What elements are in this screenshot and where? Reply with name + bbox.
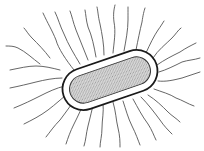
flagellum [133,99,156,140]
flagellum [158,72,200,81]
flagellum [70,11,88,60]
bacterium-diagram: peritrichous bacterium [0,0,204,151]
flagellum [141,97,172,134]
cell-body [57,44,163,116]
flagellum [6,46,40,64]
flagellum [10,66,60,70]
flagellum [136,8,145,50]
flagellum [14,86,65,108]
flagellum [124,7,128,51]
flagellum [100,103,103,147]
flagellum [85,10,96,57]
flagellum [154,89,194,106]
flagellum [24,28,50,58]
bacterium-illustration [0,0,204,151]
flagellum [113,102,120,147]
flagellum [148,95,180,122]
flagellum [10,78,62,88]
flagellum [113,5,115,53]
flagellum [55,12,80,64]
flagellum [97,7,104,55]
